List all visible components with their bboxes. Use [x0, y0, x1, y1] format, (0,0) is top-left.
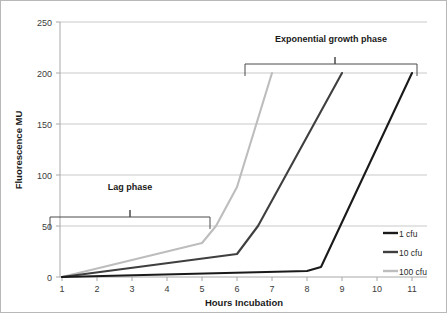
x-tick-label-4: 4 [164, 284, 169, 294]
x-tick-label-10: 10 [372, 284, 382, 294]
x-tick-label-1: 1 [59, 284, 64, 294]
legend-label-100-cfu: 100 cfu [399, 267, 427, 277]
lag-phase-label: Lag phase [108, 182, 153, 192]
y-tick-label-100: 100 [37, 171, 52, 181]
exponential-growth-phase-annotation: Exponential growth phase [245, 34, 417, 76]
axes [56, 22, 427, 281]
x-tick-label-11: 11 [407, 284, 416, 294]
y-tick-label-0: 0 [47, 273, 52, 283]
gridlines [60, 22, 427, 226]
chart-legend: 1 cfu 10 cfu 100 cfu [383, 229, 427, 277]
legend-item-100-cfu[interactable]: 100 cfu [383, 267, 427, 277]
x-tick-label-9: 9 [339, 284, 344, 294]
y-tick-label-150: 150 [37, 120, 52, 130]
y-axis-title: Fluorescence MU [13, 111, 24, 190]
x-tick-label-3: 3 [129, 284, 134, 294]
chart-container: 250 200 150 100 50 0 1 2 3 4 5 6 7 8 9 1… [0, 0, 448, 314]
x-tick-label-8: 8 [304, 284, 309, 294]
exponential-growth-label: Exponential growth phase [275, 34, 387, 44]
lag-phase-annotation: Lag phase [50, 182, 210, 229]
legend-item-1-cfu[interactable]: 1 cfu [383, 229, 418, 239]
x-tick-label-7: 7 [269, 284, 274, 294]
x-tick-label-2: 2 [94, 284, 99, 294]
y-tick-label-200: 200 [37, 69, 52, 79]
line-chart-svg: 250 200 150 100 50 0 1 2 3 4 5 6 7 8 9 1… [0, 0, 448, 314]
y-axis-tick-labels: 250 200 150 100 50 0 [37, 18, 52, 283]
x-tick-label-5: 5 [199, 284, 204, 294]
legend-item-10-cfu[interactable]: 10 cfu [383, 248, 422, 258]
x-tick-label-6: 6 [234, 284, 239, 294]
y-tick-label-250: 250 [37, 18, 52, 28]
x-axis-tick-labels: 1 2 3 4 5 6 7 8 9 10 11 [59, 284, 416, 294]
legend-label-1-cfu: 1 cfu [399, 229, 418, 239]
x-axis-title: Hours Incubation [205, 297, 283, 308]
legend-label-10-cfu: 10 cfu [399, 248, 422, 258]
